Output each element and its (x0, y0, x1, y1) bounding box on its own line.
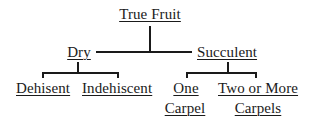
connector-dry-stem (77, 62, 79, 72)
connector-dry-bracket (42, 72, 119, 74)
node-succulent: Succulent (197, 44, 255, 61)
connector-one-carpel-drop (186, 72, 188, 78)
connector-two-carpels-drop (255, 72, 257, 78)
node-one-carpel-line2: Carpel (163, 100, 207, 117)
node-true-fruit: True Fruit (118, 6, 182, 23)
connector-root-stem (149, 26, 151, 51)
connector-dehisent-drop (42, 72, 44, 78)
node-indehiscent: Indehiscent (82, 80, 150, 97)
node-dehisent: Dehisent (16, 80, 70, 97)
connector-succulent-stem (227, 62, 229, 72)
node-two-carpels-line2: Carpels (234, 100, 282, 117)
connector-succulent-bracket (186, 72, 257, 74)
connector-level1-horizontal (96, 51, 192, 53)
connector-indehiscent-drop (117, 72, 119, 78)
node-one-carpel-line1: One (168, 80, 204, 97)
fruit-classification-diagram: True Fruit Dry Succulent Dehisent Indehi… (0, 0, 314, 123)
node-two-carpels-line1: Two or More (218, 80, 298, 97)
node-dry: Dry (66, 44, 92, 61)
